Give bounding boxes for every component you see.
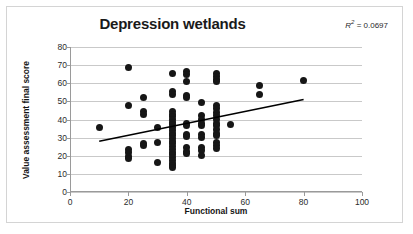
trendline [70, 47, 362, 192]
y-tick-label: 80 [27, 42, 67, 52]
y-tick-label: 70 [27, 60, 67, 70]
y-tick-label: 20 [27, 151, 67, 161]
plot-area: 01020304050607080 020406080100 [70, 47, 362, 192]
x-tick-mark [128, 192, 129, 196]
y-tick-label: 40 [27, 115, 67, 125]
y-tick-label: 10 [27, 169, 67, 179]
y-tick-label: 60 [27, 78, 67, 88]
r-squared-annotation: R2 = 0.0697 [345, 19, 388, 30]
r-squared-value: = 0.0697 [354, 21, 388, 30]
y-tick-label: 30 [27, 133, 67, 143]
chart-container: Depression wetlands R2 = 0.0697 Value as… [6, 6, 403, 223]
trendline-segment [99, 100, 303, 142]
x-tick-mark [362, 192, 363, 196]
x-tick-mark [245, 192, 246, 196]
x-tick-mark [304, 192, 305, 196]
chart-title: Depression wetlands [7, 15, 402, 32]
x-axis-title-text: Functional sum [185, 206, 248, 216]
y-tick-label: 50 [27, 96, 67, 106]
y-tick-label: 0 [27, 187, 67, 197]
chart-title-text: Depression wetlands [99, 15, 245, 32]
x-tick-mark [187, 192, 188, 196]
x-axis-title: Functional sum [70, 206, 362, 216]
x-tick-mark [70, 192, 71, 196]
gridline [70, 192, 362, 193]
